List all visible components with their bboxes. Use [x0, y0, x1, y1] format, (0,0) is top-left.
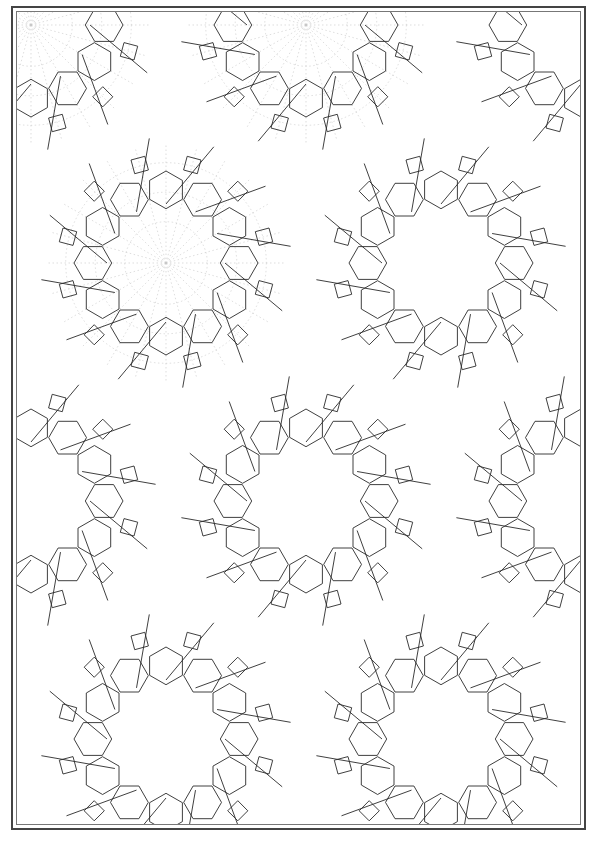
pattern-panel	[16, 11, 581, 825]
interlace-lines	[17, 12, 581, 825]
geometric-pattern-illustration	[17, 12, 581, 825]
